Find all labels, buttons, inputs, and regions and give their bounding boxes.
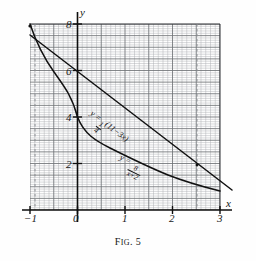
plot-area: −1 0 1 2 3 2 4 6 8 x y y =14(11−3x) y =8… [0,0,256,232]
graph-svg [0,0,256,232]
y-axis-label: y [80,7,85,18]
x-tick-label-2: 2 [169,213,175,224]
caption-smallcaps: IG [121,238,130,247]
y-tick-label-4: 4 [66,112,72,123]
figure-caption: FIG. 5 [0,236,256,247]
y-tick-label-6: 6 [66,66,72,77]
x-tick-label-1: 1 [122,213,128,224]
figure-5: −1 0 1 2 3 2 4 6 8 x y y =14(11−3x) y =8… [0,0,256,261]
y-tick-label-2: 2 [66,159,72,170]
x-tick-label-3: 3 [217,213,223,224]
line-equation-denominator: 4 [92,126,101,136]
x-tick-label--1: −1 [24,213,37,224]
x-tick-label-0: 0 [73,213,79,224]
caption-suffix: . 5 [130,236,141,247]
x-axis-label: x [226,198,231,209]
y-tick-label-8: 8 [66,19,72,30]
